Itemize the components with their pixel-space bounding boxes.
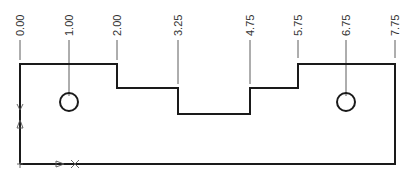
technical-drawing: 0.00 1.00 2.00 3.25 4.75 5.75 6.75 7.75 — [0, 0, 420, 171]
ordinate-label: 4.75 — [244, 15, 256, 36]
ordinate-label: 2.00 — [111, 15, 123, 36]
ordinate-label: 6.75 — [340, 15, 352, 36]
ordinate-label: 5.75 — [292, 15, 304, 36]
ordinate-extension-lines — [20, 40, 395, 96]
ordinate-label: 7.75 — [389, 15, 401, 36]
ordinate-labels: 0.00 1.00 2.00 3.25 4.75 5.75 6.75 7.75 — [14, 15, 401, 36]
origin-marker — [17, 104, 79, 168]
part-outline — [20, 64, 395, 164]
ordinate-label: 0.00 — [14, 15, 26, 36]
ordinate-label: 3.25 — [172, 15, 184, 36]
ordinate-label: 1.00 — [63, 15, 75, 36]
